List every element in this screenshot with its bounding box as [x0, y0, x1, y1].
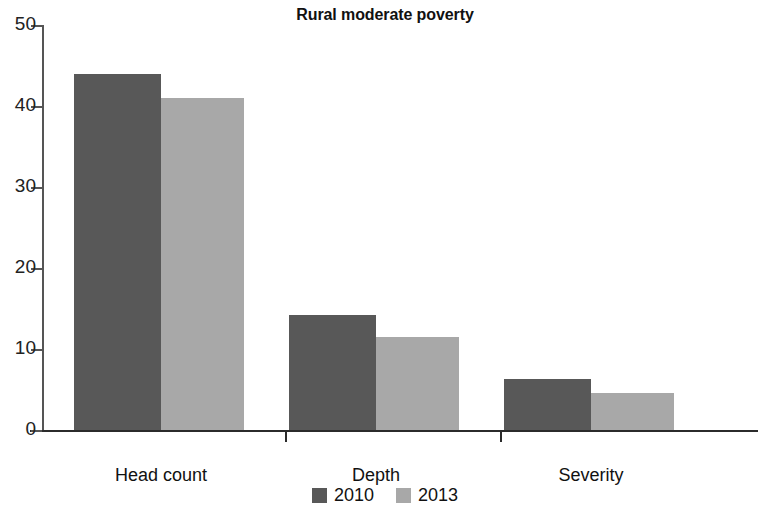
- bar: [504, 379, 591, 430]
- y-axis-tick-label: 50: [15, 13, 36, 35]
- y-axis-line: [42, 25, 44, 432]
- y-axis-tick-label: 40: [15, 94, 36, 116]
- chart-figure: Rural moderate poverty 01020304050 Head …: [0, 0, 770, 514]
- legend-item: 2013: [396, 486, 458, 504]
- legend-label: 2010: [334, 486, 374, 504]
- legend-label: 2013: [418, 486, 458, 504]
- chart-title: Rural moderate poverty: [0, 6, 770, 24]
- x-axis-category-label: Depth: [352, 465, 400, 486]
- bar: [591, 393, 674, 430]
- x-axis-line: [30, 430, 758, 432]
- x-axis-divider-tick: [500, 430, 502, 442]
- bar: [161, 98, 244, 430]
- y-axis-tick-label: 0: [25, 418, 36, 440]
- legend-item: 2010: [312, 486, 374, 504]
- plot-area: 01020304050 Head countDepthSeverity: [42, 25, 758, 432]
- y-axis-tick-label: 10: [15, 337, 36, 359]
- x-axis-category-label: Head count: [115, 465, 207, 486]
- bar: [376, 337, 459, 430]
- y-axis-tick-label: 20: [15, 256, 36, 278]
- y-axis-tick-label: 30: [15, 175, 36, 197]
- legend-swatch: [396, 488, 411, 503]
- x-axis-category-label: Severity: [558, 465, 623, 486]
- legend-swatch: [312, 488, 327, 503]
- chart-legend: 20102013: [0, 486, 770, 504]
- bar: [289, 315, 376, 430]
- bar: [74, 74, 161, 430]
- x-axis-divider-tick: [285, 430, 287, 442]
